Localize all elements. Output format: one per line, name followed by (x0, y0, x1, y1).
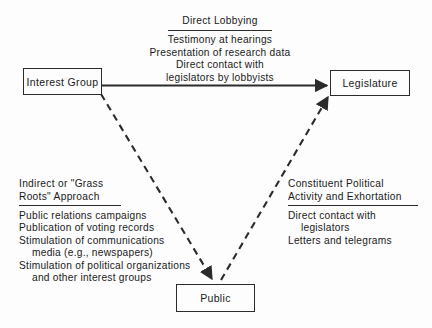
diagram-canvas: Interest Group Legislature Public Direct… (0, 0, 432, 328)
body-line: legislators (288, 222, 428, 235)
body-line: Testimony at hearings (132, 34, 308, 47)
heading-constituent-activity: Constituent Political Activity and Exhor… (288, 178, 428, 206)
node-interest-group-label: Interest Group (26, 76, 98, 88)
text-block-direct-lobbying: Direct Lobbying Testimony at hearings Pr… (132, 10, 308, 84)
heading-line: Activity and Exhortation (288, 191, 428, 204)
node-legislature[interactable]: Legislature (330, 70, 410, 96)
heading-line: Direct Lobbying (168, 15, 272, 28)
node-interest-group[interactable]: Interest Group (23, 68, 102, 95)
node-public-label: Public (200, 292, 231, 304)
heading-grass-roots: Indirect or "Grass Roots" Approach (19, 178, 214, 206)
body-line: Stimulation of political organizations (19, 260, 214, 273)
text-block-constituent-activity: Constituent Political Activity and Exhor… (288, 178, 428, 247)
body-line: Public relations campaigns (19, 210, 214, 223)
body-line: Presentation of research data (132, 47, 308, 60)
body-line: legislators by lobbyists (132, 72, 308, 85)
body-line: Publication of voting records (19, 222, 214, 235)
node-public[interactable]: Public (176, 284, 255, 312)
body-line: Direct contact with (288, 210, 428, 223)
heading-line: Indirect or "Grass (19, 178, 214, 191)
body-grass-roots: Public relations campaigns Publication o… (19, 210, 214, 286)
heading-underline (288, 205, 418, 206)
body-line: Direct contact with (132, 59, 308, 72)
heading-line: Constituent Political (288, 178, 428, 191)
heading-underline (168, 30, 272, 31)
body-line: media (e.g., newspapers) (19, 247, 214, 260)
heading-direct-lobbying: Direct Lobbying (168, 15, 272, 34)
body-line: Letters and telegrams (288, 235, 428, 248)
body-direct-lobbying: Testimony at hearings Presentation of re… (132, 34, 308, 84)
heading-underline (19, 205, 121, 206)
text-block-grass-roots: Indirect or "Grass Roots" Approach Publi… (19, 178, 214, 285)
body-line: Stimulation of communications (19, 235, 214, 248)
heading-line: Roots" Approach (19, 191, 214, 204)
body-constituent-activity: Direct contact with legislators Letters … (288, 210, 428, 248)
node-legislature-label: Legislature (342, 77, 397, 89)
